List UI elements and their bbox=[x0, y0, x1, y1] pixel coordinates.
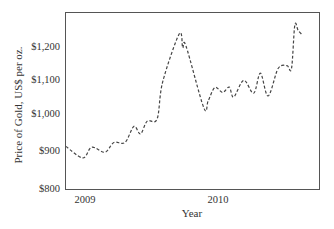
plot-frame bbox=[66, 13, 320, 190]
xtick-2009: 2009 bbox=[75, 194, 96, 205]
ytick-900: $900 bbox=[39, 145, 60, 156]
gold-price-line bbox=[66, 23, 303, 158]
x-axis-label: Year bbox=[182, 207, 203, 219]
xtick-2010: 2010 bbox=[208, 194, 229, 205]
ytick-1100: $1,100 bbox=[31, 74, 60, 85]
gold-price-chart: $1,200 $1,100 $1,000 $900 $800 2009 2010… bbox=[0, 0, 334, 229]
y-axis-label: Price of Gold, US$ per oz. bbox=[12, 46, 24, 163]
ytick-1000: $1,000 bbox=[31, 108, 60, 119]
ytick-800: $800 bbox=[39, 183, 60, 194]
ytick-1200: $1,200 bbox=[31, 41, 60, 52]
